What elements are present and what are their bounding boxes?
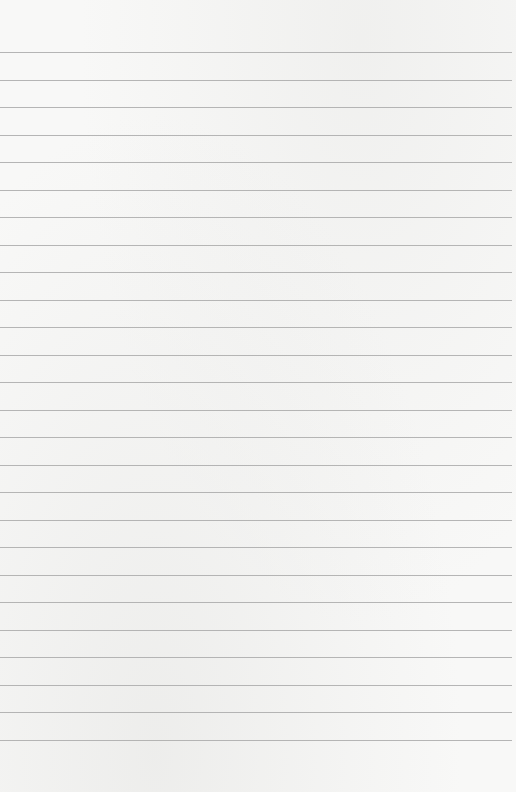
ruled-line	[0, 520, 512, 521]
ruled-line	[0, 80, 512, 81]
ruled-line	[0, 190, 512, 191]
ruled-line	[0, 492, 512, 493]
ruled-line	[0, 630, 512, 631]
ruled-line	[0, 712, 512, 713]
ruled-line	[0, 410, 512, 411]
ruled-line	[0, 355, 512, 356]
ruled-line	[0, 52, 512, 53]
ruled-line	[0, 602, 512, 603]
lined-paper-sheet	[0, 0, 516, 792]
ruled-line	[0, 657, 512, 658]
ruled-line	[0, 162, 512, 163]
ruled-line	[0, 217, 512, 218]
ruled-line	[0, 245, 512, 246]
ruled-line	[0, 740, 512, 741]
ruled-line	[0, 547, 512, 548]
ruled-line	[0, 300, 512, 301]
ruled-line	[0, 327, 512, 328]
ruled-line	[0, 272, 512, 273]
ruled-line	[0, 135, 512, 136]
ruled-line	[0, 382, 512, 383]
ruled-line	[0, 685, 512, 686]
ruled-line	[0, 437, 512, 438]
ruled-line	[0, 575, 512, 576]
ruled-line	[0, 465, 512, 466]
ruled-line	[0, 107, 512, 108]
